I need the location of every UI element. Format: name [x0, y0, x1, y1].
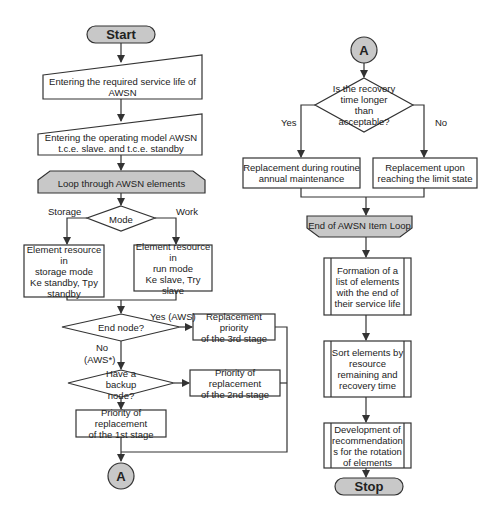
storage-resource-line: storage mode: [35, 266, 93, 277]
sort-elements-line: recovery time: [339, 380, 396, 391]
recommendations-line: Development of: [334, 424, 401, 435]
recovery-decision-line: time longer than: [330, 94, 398, 116]
connector-a-in-label: A: [351, 37, 377, 63]
run-resource-line: Ke slave, Try slave: [134, 274, 212, 296]
backup-decision-line: node?: [108, 390, 134, 401]
input-operating-model-label: Entering the operating model AWSN t.c.e.…: [40, 130, 202, 155]
end-node-decision-label: End node?: [90, 320, 152, 334]
formation-list-line: with the end of: [337, 287, 399, 298]
backup-decision-label: Have a backup node?: [90, 373, 152, 395]
sort-elements-line: resource: [349, 358, 386, 369]
limit-replacement-line: Replacement upon: [385, 162, 465, 173]
stage3-line: of the 3rd stage: [201, 333, 267, 344]
storage-resource-line: standby: [47, 288, 80, 299]
limit-replacement-label: Replacement upon reaching the limit stat…: [373, 158, 477, 188]
sort-elements-line: remaining and: [337, 369, 397, 380]
recommendations-line: of elements: [343, 457, 392, 468]
stage2-label: Priority of replacement of the 2nd stage: [190, 370, 280, 396]
flowchart-diagram: Start Entering the required service life…: [0, 0, 500, 516]
formation-list-line: list of elements: [336, 276, 399, 287]
formation-list-line: their service life: [335, 298, 401, 309]
limit-replacement-line: reaching the limit state: [377, 173, 472, 184]
backup-decision-line: Have a backup: [90, 368, 152, 390]
loop-start-label: Loop through AWSN elements: [38, 173, 205, 193]
sort-elements-label: Sort elements by resource remaining and …: [331, 341, 404, 397]
recovery-no-label: No: [435, 117, 447, 128]
storage-resource-line: Ke standby, Tpy: [30, 277, 98, 288]
stage3-label: Replacement priority of the 3rd stage: [193, 314, 275, 340]
stage1-label: Priority of replacement of the 1st stage: [76, 410, 166, 437]
end-node-no-label: No: [96, 342, 108, 353]
formation-list-label: Formation of a list of elements with the…: [331, 258, 404, 315]
stage3-line: Replacement priority: [193, 311, 275, 333]
run-resource-line: Element resource in: [134, 241, 212, 263]
input-service-life-label: Entering the required service life of AW…: [43, 74, 202, 99]
recovery-decision-line: acceptable?: [338, 116, 389, 127]
run-resource-label: Element resource in run mode Ke slave, T…: [134, 245, 212, 291]
stage2-line: Priority of replacement: [190, 367, 280, 389]
routine-replacement-line: Replacement during routine: [243, 162, 360, 173]
stop-label: Stop: [335, 478, 403, 495]
mode-branch-storage-label: Storage: [48, 206, 81, 217]
recovery-decision-label: Is the recovery time longer than accepta…: [330, 88, 398, 122]
end-node-no-aws-label: (AWS*): [84, 354, 115, 365]
loop-end-label: End of AWSN Item Loop: [307, 216, 412, 234]
recovery-decision-line: Is the recovery: [333, 83, 395, 94]
end-node-yes-label: Yes (AWS): [150, 311, 196, 322]
connector-a-out-label: A: [108, 463, 134, 489]
sort-elements-line: Sort elements by: [332, 347, 403, 358]
start-label: Start: [87, 26, 155, 43]
recommendations-line: s for the rotation: [333, 446, 402, 457]
stage1-line: of the 1st stage: [89, 429, 154, 440]
recommendations-line: recommendation: [332, 435, 403, 446]
storage-resource-label: Element resource in storage mode Ke stan…: [24, 245, 104, 297]
mode-branch-work-label: Work: [176, 206, 198, 217]
recommendations-label: Development of recommendation s for the …: [331, 423, 404, 468]
mode-decision-label: Mode: [87, 210, 155, 228]
routine-replacement-label: Replacement during routine annual mainte…: [243, 158, 360, 188]
stage1-line: Priority of replacement: [76, 407, 166, 429]
recovery-yes-label: Yes: [281, 117, 297, 128]
routine-replacement-line: annual maintenance: [259, 173, 345, 184]
storage-resource-line: Element resource in: [24, 244, 104, 266]
run-resource-line: run mode: [153, 263, 193, 274]
formation-list-line: Formation of a: [337, 265, 398, 276]
stage2-line: of the 2nd stage: [201, 389, 269, 400]
